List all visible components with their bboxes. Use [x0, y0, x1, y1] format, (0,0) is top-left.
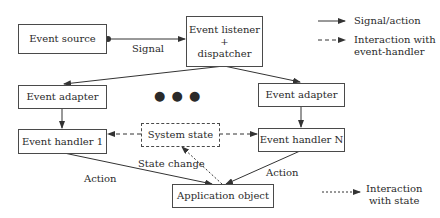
event-handler-1-label: Event handler 1: [22, 136, 103, 148]
system-state-label: System state: [148, 129, 213, 141]
legend-interaction-state: Interaction with state: [366, 183, 422, 207]
listener-plus: +: [220, 36, 228, 48]
event-source-label: Event source: [29, 33, 95, 45]
ellipsis-dots: ● ● ●: [154, 90, 201, 102]
legend-interaction-handler-line2: event-handler: [354, 46, 436, 58]
event-handler-n-node: Event handler N: [258, 128, 345, 152]
legend-interaction-state-line2: with state: [366, 195, 422, 207]
listener-label: Event listener: [189, 24, 260, 36]
system-state-node: System state: [141, 123, 220, 147]
event-listener-dispatcher-node: Event listener + dispatcher: [186, 16, 263, 67]
event-handler-n-label: Event handler N: [260, 134, 344, 146]
state-change-edge-label: State change: [138, 158, 205, 170]
dispatcher-label: dispatcher: [198, 48, 252, 60]
event-adapter-left-label: Event adapter: [27, 91, 99, 103]
event-adapter-left-node: Event adapter: [18, 85, 107, 109]
signal-edge-label: Signal: [132, 43, 164, 55]
event-adapter-right-node: Event adapter: [258, 83, 345, 107]
legend-signal-action: Signal/action: [354, 15, 421, 27]
event-handler-1-node: Event handler 1: [18, 129, 107, 154]
event-adapter-right-label: Event adapter: [266, 89, 338, 101]
event-source-node: Event source: [18, 24, 107, 54]
legend-interaction-handler-line1: Interaction with: [354, 34, 436, 46]
action-right-edge-label: Action: [266, 167, 299, 179]
legend-interaction-state-line1: Interaction: [366, 183, 422, 195]
legend-interaction-handler: Interaction with event-handler: [354, 34, 436, 58]
application-object-label: Application object: [177, 190, 269, 202]
action-left-edge-label: Action: [84, 173, 117, 185]
application-object-node: Application object: [172, 184, 274, 208]
